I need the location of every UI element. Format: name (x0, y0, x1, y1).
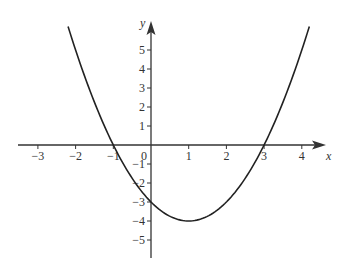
y-tick-label: 3 (139, 81, 145, 95)
x-tick-label: −1 (107, 149, 120, 163)
parabola-curve (68, 26, 309, 221)
x-axis-ticks: −3−2−101234 (32, 145, 305, 163)
y-axis-label: y (139, 16, 146, 30)
parabola-plot: −3−2−101234 −5−4−3−2−112345 x y (0, 0, 355, 272)
x-tick-label: −2 (69, 149, 82, 163)
y-tick-label: −4 (132, 214, 145, 228)
y-axis (147, 21, 156, 258)
x-tick-label: 1 (186, 149, 192, 163)
y-tick-label: 5 (139, 43, 145, 57)
y-tick-label: 4 (139, 62, 145, 76)
x-tick-label: −3 (32, 149, 45, 163)
y-tick-label: 1 (139, 119, 145, 133)
x-axis (18, 141, 326, 150)
y-tick-label: −5 (132, 233, 145, 247)
x-tick-label: 4 (299, 149, 305, 163)
y-tick-label: −3 (132, 195, 145, 209)
x-axis-label: x (325, 149, 332, 163)
y-tick-label: −1 (132, 157, 145, 171)
x-tick-label: 2 (223, 149, 229, 163)
x-tick-label: 3 (261, 149, 267, 163)
y-tick-label: 2 (139, 100, 145, 114)
